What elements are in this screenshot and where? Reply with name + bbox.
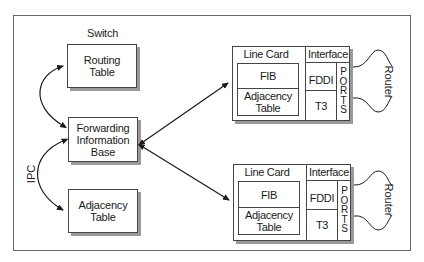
arrow-fib-adjacency-table — [37, 141, 63, 210]
arrow-fib-routing-table — [40, 66, 63, 125]
router-link-2a — [354, 171, 392, 186]
arrow-fib-line-card-1 — [143, 83, 228, 142]
connector-lines — [0, 0, 424, 262]
router-link-1a — [353, 50, 392, 67]
router-link-2b — [354, 215, 392, 230]
arrow-fib-line-card-2 — [143, 147, 229, 200]
router-link-1b — [353, 96, 392, 112]
